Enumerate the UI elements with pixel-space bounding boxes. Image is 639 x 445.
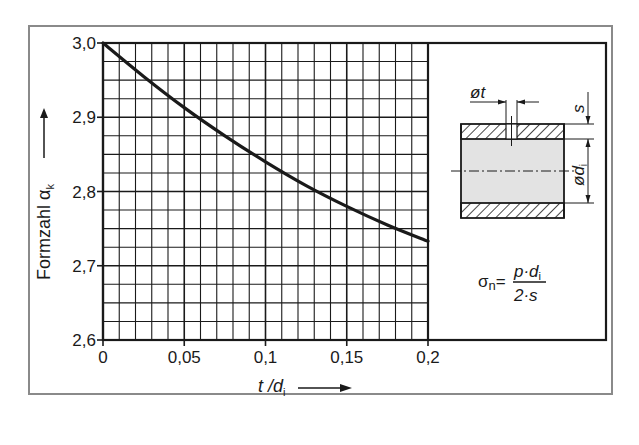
pipe-wall-bottom [461, 203, 564, 218]
y-axis-label: Formzahl αk [34, 108, 56, 280]
y-tick-label: 2,9 [72, 108, 96, 127]
formula-numerator-sub: i [539, 270, 541, 282]
y-axis-label-main: Formzahl α [34, 190, 54, 280]
svg-text:Formzahl αk: Formzahl αk [34, 184, 56, 280]
dim-t-label: øt [470, 83, 486, 102]
dim-di-label-sub: i [578, 164, 589, 166]
x-tick-label: 0,2 [416, 348, 440, 367]
pipe-diagram: øt s ødi [451, 83, 594, 218]
svg-text:σn=: σn= [478, 272, 506, 293]
x-axis-label-main: t /d [258, 376, 284, 396]
dim-di-label: ødi [569, 164, 589, 186]
y-tick-label: 2,7 [72, 257, 96, 276]
ticks [97, 43, 428, 346]
dim-di-label-main: ød [569, 166, 588, 186]
y-axis-label-sub: k [44, 184, 56, 190]
y-tick-label: 3,0 [72, 34, 96, 53]
x-axis-label-sub: i [283, 386, 285, 398]
x-tick-label: 0 [98, 348, 107, 367]
formula-lhs-sub: n [489, 278, 496, 293]
chart: 00,050,10,150,22,62,72,82,93,0 Formzahl … [0, 0, 639, 445]
x-tick-label: 0,05 [168, 348, 201, 367]
dim-t-arrow-right [517, 100, 525, 105]
x-axis-arrow-head [340, 384, 352, 392]
x-axis-label: t /di [258, 376, 352, 398]
formula-numerator: p·d [513, 262, 539, 281]
dim-di-arrow-top [586, 139, 591, 147]
y-tick-label: 2,8 [72, 183, 96, 202]
dim-di-arrow-bottom [586, 195, 591, 203]
svg-text:ødi: ødi [569, 164, 589, 186]
y-axis-arrow-head [40, 108, 48, 118]
grid [103, 43, 428, 340]
tick-labels: 00,050,10,150,22,62,72,82,93,0 [72, 34, 439, 367]
dim-s-arrow [586, 116, 591, 124]
x-tick-label: 0,15 [330, 348, 363, 367]
y-tick-label: 2,6 [72, 331, 96, 350]
formula-denominator: 2·s [513, 286, 538, 305]
formula: σn= p·di 2·s [478, 262, 546, 305]
dim-s-label: s [569, 104, 588, 113]
formula-equals: = [496, 272, 506, 291]
formula-lhs: σ [478, 272, 489, 291]
svg-text:t /di: t /di [258, 376, 285, 398]
dim-t-arrow-left [498, 100, 506, 105]
svg-text:p·di: p·di [513, 262, 541, 282]
x-tick-label: 0,1 [254, 348, 278, 367]
